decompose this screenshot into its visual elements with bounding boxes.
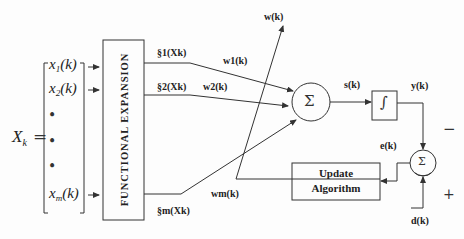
weight-label-m: wm(k) <box>211 188 239 199</box>
ellipsis-dot: • <box>48 107 56 123</box>
weight-vector-label: w(k) <box>264 11 283 22</box>
update-algorithm-line2: Algorithm <box>292 181 380 196</box>
weight-label-1: w1(k) <box>223 55 247 66</box>
expansion-output-m: §m(Xk) <box>157 205 190 216</box>
vector-element-x2: x2(k) <box>49 80 77 98</box>
functional-expansion-label: FUNCTIONAL EXPANSION <box>119 50 130 210</box>
expansion-output-1: §1(Xk) <box>157 47 186 58</box>
plus-sign: + <box>443 186 455 202</box>
update-algorithm-block: Update Algorithm <box>292 166 380 196</box>
weight-label-2: w2(k) <box>203 81 227 92</box>
error-label: e(k) <box>380 140 397 151</box>
flann-diagram: Xk = x1(k) x2(k) • • • xm(k) FUNCTIONAL … <box>0 0 464 239</box>
vector-element-x1: x1(k) <box>49 56 77 74</box>
sum-output-label: s(k) <box>344 79 360 90</box>
ellipsis-dot: • <box>48 158 56 174</box>
desired-label: d(k) <box>411 215 429 226</box>
expansion-output-2: §2(Xk) <box>157 81 186 92</box>
vector-element-xm: xm(k) <box>49 185 79 203</box>
activation-function-icon: ∫ <box>380 93 388 111</box>
input-vector-label: Xk <box>12 127 27 148</box>
error-summation-icon: Σ <box>418 155 426 168</box>
output-label: y(k) <box>411 80 428 91</box>
update-algorithm-line1: Update <box>292 166 380 181</box>
equals-sign: = <box>33 126 47 146</box>
minus-sign: − <box>443 120 456 138</box>
diagram-lines <box>0 0 464 239</box>
ellipsis-dot: • <box>48 133 56 149</box>
summation-icon: Σ <box>304 92 315 110</box>
